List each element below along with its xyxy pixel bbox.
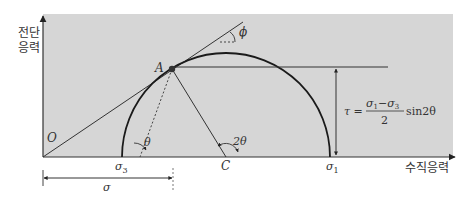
y-axis-label-line1: 전단 [18,26,40,40]
formula-numerator: σ1−σ3 [366,97,399,111]
mohr-circle-diagram: 전단 응력 수직응력 O A C ϕ θ 2θ σ3 σ1 σ τ = σ1−σ… [0,0,469,200]
x-axis-label: 수직응력 [405,161,449,175]
diagram-background-panel [43,14,453,157]
point-a-marker [169,66,175,72]
sigma1-label: σ1 [326,160,339,175]
theta-label: θ [144,136,151,149]
formula-trig: sin2θ [406,105,436,118]
center-c-label: C [221,159,230,173]
formula-denominator: 2 [381,114,388,127]
point-a-label: A [154,61,164,75]
sigma-dimension-label: σ [103,181,111,194]
phi-label: ϕ [239,25,247,39]
y-axis-label-line2: 응력 [18,41,40,55]
formula-lhs: τ = [344,105,363,118]
origin-label: O [47,131,57,145]
two-theta-label: 2θ [232,135,247,148]
sigma3-label: σ3 [115,160,128,175]
